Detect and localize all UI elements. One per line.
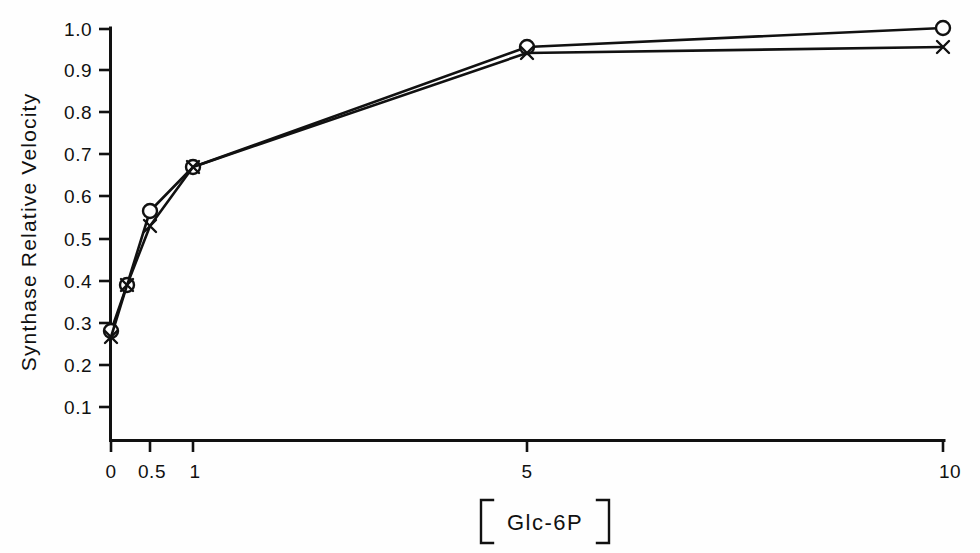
x-axis-ticks <box>111 441 943 452</box>
series-cross <box>105 41 949 343</box>
y-tick-label-1.0: 1.0 <box>64 19 92 40</box>
y-tick-label-0.5: 0.5 <box>64 229 92 250</box>
data-point-marker <box>936 21 950 35</box>
x-axis-title-text: Glc-6P <box>507 510 583 535</box>
x-tick-label-1: 1 <box>189 461 200 482</box>
y-tick-label-0.9: 0.9 <box>64 60 92 81</box>
y-axis-tick-labels: 0.1 0.2 0.3 0.4 0.5 0.6 0.7 0.8 0.9 1.0 <box>64 19 92 418</box>
series-cross-line <box>111 47 943 337</box>
y-tick-label-0.8: 0.8 <box>64 102 92 123</box>
y-tick-label-0.1: 0.1 <box>64 397 92 418</box>
x-tick-label-10: 10 <box>939 461 961 482</box>
y-tick-label-0.3: 0.3 <box>64 313 92 334</box>
y-axis-title-text: Synthase Relative Velocity <box>17 93 40 372</box>
x-tick-label-5: 5 <box>521 461 532 482</box>
x-axis-tick-labels: 0 0.5 1 5 10 <box>105 461 961 482</box>
x-tick-label-0.5: 0.5 <box>138 461 166 482</box>
right-bracket-icon <box>597 500 609 543</box>
x-tick-label-0: 0 <box>105 461 116 482</box>
chart-svg: 0.1 0.2 0.3 0.4 0.5 0.6 0.7 0.8 0.9 1.0 … <box>0 0 980 553</box>
y-axis-ticks <box>99 29 110 407</box>
series-open-circle <box>104 21 950 338</box>
chart-figure: 0.1 0.2 0.3 0.4 0.5 0.6 0.7 0.8 0.9 1.0 … <box>0 0 980 553</box>
y-axis-title: Synthase Relative Velocity <box>17 93 40 372</box>
series-open-circle-line <box>111 28 943 331</box>
y-tick-label-0.4: 0.4 <box>64 271 92 292</box>
axes-group <box>111 28 945 441</box>
y-tick-label-0.6: 0.6 <box>64 186 92 207</box>
y-tick-label-0.7: 0.7 <box>64 144 92 165</box>
y-tick-label-0.2: 0.2 <box>64 355 92 376</box>
x-axis-title: Glc-6P <box>481 500 609 543</box>
data-point-marker <box>143 204 157 218</box>
left-bracket-icon <box>481 500 493 543</box>
